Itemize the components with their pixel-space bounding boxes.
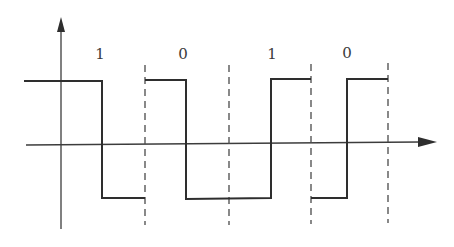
y-axis-arrow-icon: [57, 17, 65, 32]
bit-label-3: 1: [267, 45, 277, 63]
bit-4-waveform: [311, 79, 388, 198]
signal-waveform: [24, 79, 388, 199]
x-axis-arrow-icon: [418, 137, 437, 147]
bit-label-2: 0: [178, 45, 188, 63]
bit-2-waveform: [145, 79, 311, 199]
x-axis: [26, 137, 437, 147]
bit-labels: 1 0 1 0: [95, 44, 352, 63]
signal-diagram: 1 0 1 0: [0, 0, 454, 247]
bit-label-4: 0: [342, 44, 352, 62]
bit-label-1: 1: [95, 45, 105, 63]
y-axis: [57, 17, 65, 229]
bit-1-waveform: [24, 81, 145, 198]
